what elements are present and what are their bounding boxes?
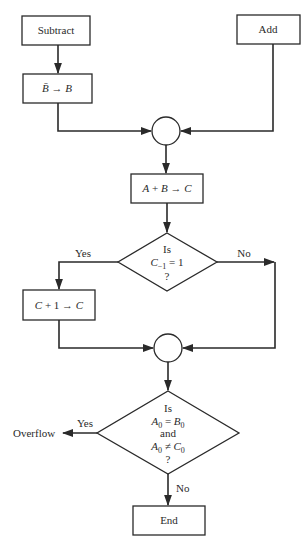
carry-is-text: Is — [163, 243, 171, 255]
sum-box: A + B → C — [131, 174, 203, 203]
end-box: End — [133, 506, 205, 535]
carry-check-diamond: Is C−1 = 1 ? — [118, 233, 217, 291]
sum-label: A + B → C — [141, 182, 192, 194]
carry-question-mark: ? — [165, 270, 170, 282]
increment-label: C + 1 → C — [35, 299, 84, 311]
overflow-question-mark: ? — [166, 453, 171, 465]
overflow-label: Overflow — [13, 427, 55, 439]
subtract-box: Subtract — [22, 16, 90, 45]
carry-yes-label: Yes — [75, 247, 91, 259]
add-box: Add — [237, 15, 300, 44]
flowchart: Subtract Add B̄ → B A + B → C Is C−1 = 1 — [0, 0, 301, 547]
overflow-is-text: Is — [164, 402, 172, 414]
edge-add-join1 — [181, 44, 273, 131]
edge-increment-join2 — [59, 320, 153, 348]
increment-box: C + 1 → C — [23, 290, 95, 320]
complement-box: B̄ → B — [23, 74, 92, 103]
end-label: End — [160, 514, 178, 526]
add-label: Add — [259, 23, 278, 35]
complement-label: B̄ → B — [42, 82, 72, 94]
overflow-check-diamond: Is A0 = B0 and A0 ≠ C0 ? — [97, 391, 239, 474]
subtract-label: Subtract — [38, 24, 75, 36]
overflow-no-label: No — [176, 482, 190, 494]
edge-carry-yes — [59, 262, 118, 289]
edge-carry-no-down — [183, 262, 275, 348]
connector-join1 — [152, 117, 180, 145]
overflow-yes-label: Yes — [77, 417, 93, 429]
carry-no-label: No — [237, 247, 251, 259]
overflow-and-text: and — [160, 427, 176, 439]
connector-join2 — [154, 334, 182, 362]
edge-complement-join1 — [58, 103, 151, 131]
